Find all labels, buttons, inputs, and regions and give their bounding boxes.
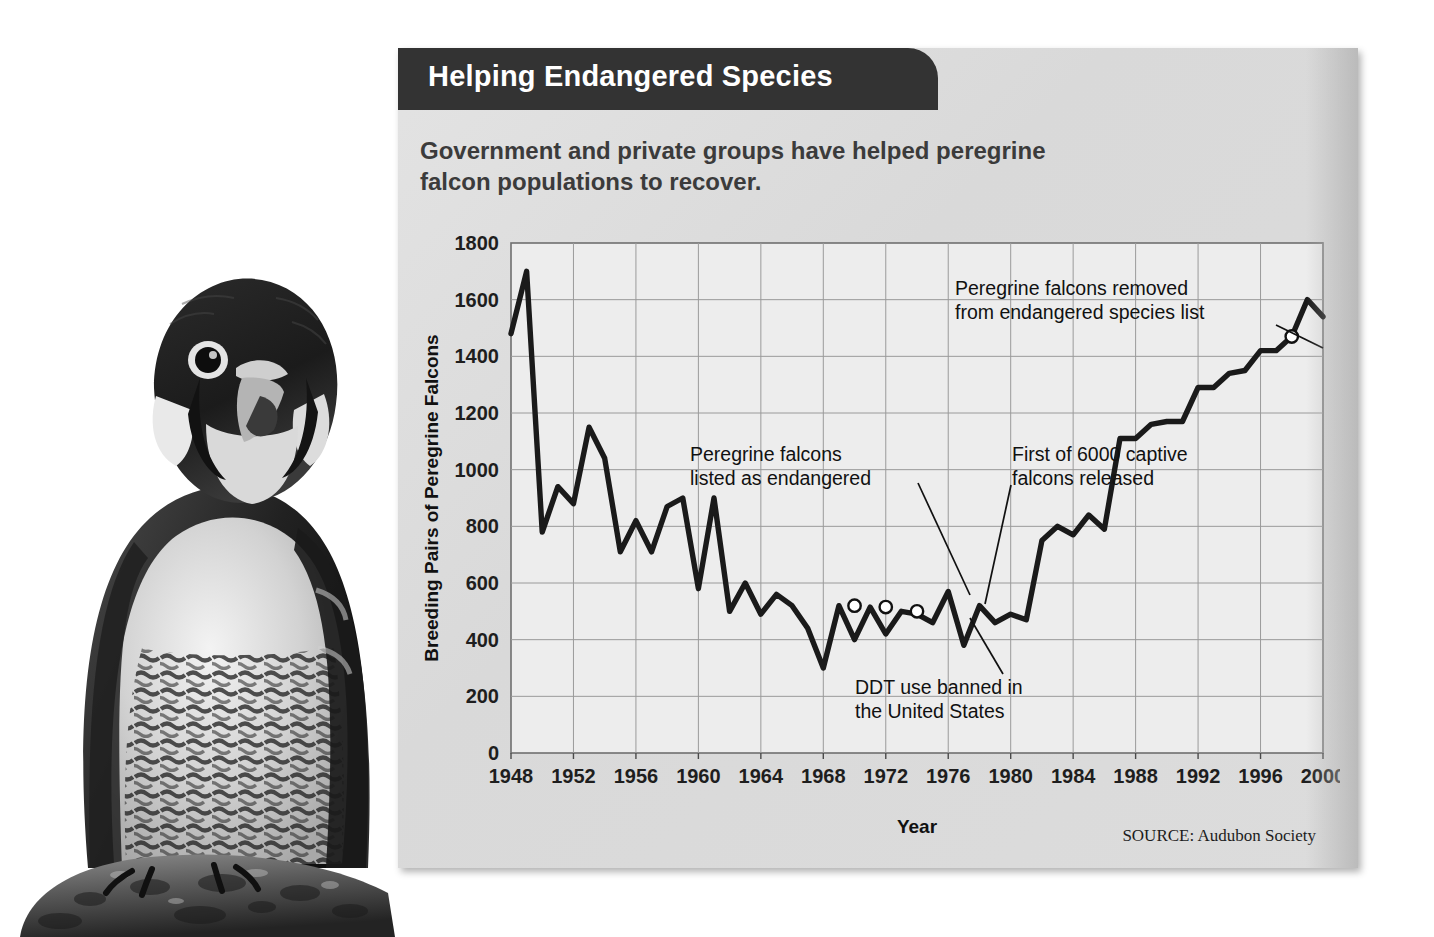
marker-ddt-use-banned <box>880 601 892 613</box>
x-tick-1984: 1984 <box>1051 765 1096 787</box>
panel-subtitle: Government and private groups have helpe… <box>420 136 1120 197</box>
annotation-delisted-line1: Peregrine falcons removed <box>955 277 1188 299</box>
y-tick-1800: 1800 <box>455 233 500 254</box>
annotation-delisted-line2: from endangered species list <box>955 301 1205 323</box>
annotation-captive-line1: First of 6000 captive <box>1012 443 1188 465</box>
x-tick-1960: 1960 <box>676 765 721 787</box>
x-tick-1996: 1996 <box>1238 765 1283 787</box>
x-tick-1972: 1972 <box>864 765 909 787</box>
marker-first-captive-falcons-released <box>911 605 923 617</box>
falcon-photo-panel <box>0 0 400 937</box>
annotation-ddt-line1: DDT use banned in <box>855 676 1023 698</box>
x-tick-1964: 1964 <box>739 765 784 787</box>
y-tick-1600: 1600 <box>455 289 500 311</box>
x-tick-2000: 2000 <box>1301 765 1340 787</box>
y-tick-800: 800 <box>466 515 499 537</box>
y-tick-600: 600 <box>466 572 499 594</box>
x-tick-1980: 1980 <box>988 765 1033 787</box>
x-axis-title: Year <box>897 816 938 837</box>
line-chart: 020040060080010001200140016001800 194819… <box>410 233 1340 853</box>
x-tick-labels: 1948195219561960196419681972197619801984… <box>489 765 1340 787</box>
annotation-ddt-line2: the United States <box>855 700 1005 722</box>
panel-title: Helping Endangered Species <box>428 60 833 93</box>
y-tick-1200: 1200 <box>455 402 500 424</box>
source-note: SOURCE: Audubon Society <box>1122 826 1316 846</box>
y-tick-1000: 1000 <box>455 459 500 481</box>
x-tick-marks <box>511 753 1323 759</box>
x-tick-1948: 1948 <box>489 765 534 787</box>
x-tick-1968: 1968 <box>801 765 846 787</box>
x-tick-1992: 1992 <box>1176 765 1221 787</box>
rock-perch <box>0 845 395 937</box>
x-tick-1976: 1976 <box>926 765 971 787</box>
y-tick-labels: 020040060080010001200140016001800 <box>455 233 500 764</box>
annotation-listed-line1: Peregrine falcons <box>690 443 842 465</box>
annotation-listed-line2: listed as endangered <box>690 467 871 489</box>
marker-peregrine-falcons-listed-as-endangered <box>848 599 860 611</box>
infographic-panel: Helping Endangered Species Government an… <box>398 48 1358 868</box>
y-tick-400: 400 <box>466 629 499 651</box>
annotation-captive-line2: falcons released <box>1012 467 1154 489</box>
panel-title-bar: Helping Endangered Species <box>398 48 938 110</box>
x-tick-1988: 1988 <box>1113 765 1158 787</box>
y-tick-0: 0 <box>488 742 499 764</box>
y-tick-200: 200 <box>466 685 499 707</box>
x-tick-1952: 1952 <box>551 765 596 787</box>
y-axis-title: Breeding Pairs of Peregrine Falcons <box>421 334 442 661</box>
y-tick-1400: 1400 <box>455 345 500 367</box>
peregrine-falcon-photo <box>30 228 390 888</box>
x-tick-1956: 1956 <box>614 765 659 787</box>
